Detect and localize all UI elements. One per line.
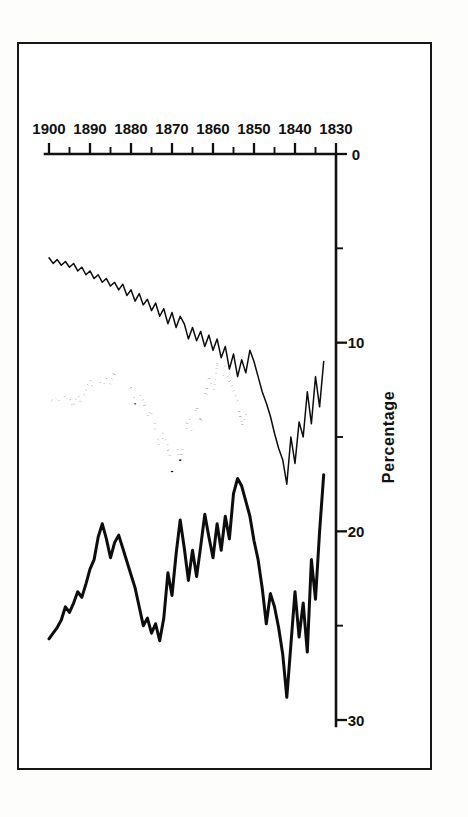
y-tick-label: 0 [352,146,360,163]
x-tick-label: 1890 [73,120,106,137]
x-tick-label: 1850 [237,120,270,137]
x-tick-label: 1880 [114,120,147,137]
x-tick-label: 1870 [155,120,188,137]
y-tick-label: 30 [348,712,365,729]
y-tick-label: 20 [348,523,365,540]
x-tick-label: 1860 [196,120,229,137]
rotated-chart-container: 183018401850186018701880189019000102030P… [19,44,434,772]
chart-series [49,258,324,698]
chart-axes [45,143,347,726]
x-tick-label: 1830 [319,120,352,137]
series-line-thin-solid-lower [49,258,324,484]
series-line-dotted-middle [49,362,246,471]
x-tick-label: 1900 [32,120,65,137]
y-tick-label: 10 [348,334,365,351]
y-axis-title: Percentage [380,391,397,483]
figure-frame: 183018401850186018701880189019000102030P… [17,42,432,770]
page-background: 183018401850186018701880189019000102030P… [0,0,468,817]
line-chart: 183018401850186018701880189019000102030P… [19,44,434,772]
x-tick-label: 1840 [278,120,311,137]
chart-labels: 183018401850186018701880189019000102030P… [32,120,396,729]
series-line-thick-solid-upper [49,475,324,698]
